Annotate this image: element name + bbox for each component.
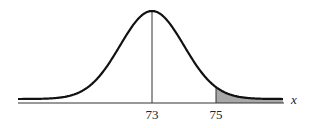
shaded-tail-region (216, 87, 283, 103)
normal-curve (18, 11, 283, 99)
cutoff-tick-label: 75 (210, 107, 223, 122)
x-axis-label: x (290, 92, 297, 107)
mean-tick-label: 73 (146, 107, 159, 122)
normal-distribution-chart: 73 75 x (0, 0, 310, 128)
